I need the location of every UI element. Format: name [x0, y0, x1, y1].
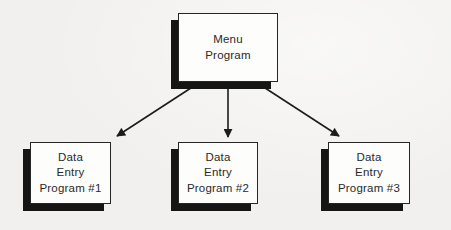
node-data-entry-program-1-label: Data Entry Program #1 — [39, 150, 101, 196]
node-data-entry-program-2: Data Entry Program #2 — [178, 142, 258, 204]
edge-menu-to-entry1 — [117, 86, 194, 136]
node-data-entry-program-1: Data Entry Program #1 — [30, 142, 111, 204]
edge-menu-to-entry3 — [262, 86, 339, 136]
node-data-entry-program-2-label: Data Entry Program #2 — [187, 150, 249, 196]
node-data-entry-program-3-label: Data Entry Program #3 — [338, 150, 400, 196]
node-data-entry-program-3: Data Entry Program #3 — [328, 142, 410, 204]
diagram-canvas: Menu Program Data Entry Program #1 Data … — [0, 0, 451, 230]
node-menu-program-label: Menu Program — [205, 32, 251, 62]
node-menu-program: Menu Program — [178, 13, 278, 82]
